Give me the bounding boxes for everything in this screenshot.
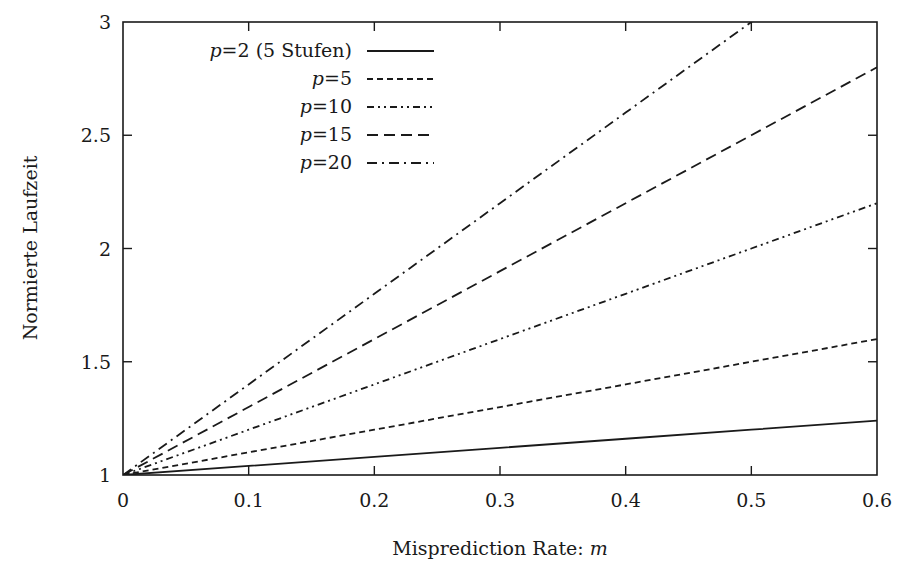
- series-line: [123, 0, 877, 475]
- axis-ticks: 00.10.20.30.40.50.611.522.53: [81, 11, 892, 511]
- legend-label: p=5: [312, 67, 352, 89]
- y-tick-label: 2: [99, 238, 111, 260]
- y-tick-label: 1.5: [81, 351, 111, 373]
- line-chart: 00.10.20.30.40.50.611.522.53 p=2 (5 Stuf…: [0, 0, 903, 575]
- x-tick-label: 0: [117, 489, 129, 511]
- series-line: [123, 203, 877, 475]
- y-axis-label: Normierte Laufzeit: [19, 155, 41, 340]
- legend: p=2 (5 Stufen)p=5p=10p=15p=20: [209, 39, 434, 173]
- x-tick-label: 0.3: [485, 489, 515, 511]
- series-line: [123, 67, 877, 475]
- legend-label: p=10: [300, 95, 352, 117]
- x-tick-label: 0.5: [736, 489, 766, 511]
- x-tick-label: 0.4: [611, 489, 641, 511]
- legend-label: p=20: [300, 151, 352, 173]
- series-layer: [123, 0, 877, 475]
- y-tick-label: 3: [99, 11, 111, 33]
- series-line: [123, 339, 877, 475]
- legend-label: p=2 (5 Stufen): [209, 39, 352, 61]
- x-tick-label: 0.2: [359, 489, 389, 511]
- y-tick-label: 1: [99, 464, 111, 486]
- x-tick-label: 0.1: [234, 489, 264, 511]
- legend-label: p=15: [300, 123, 352, 145]
- y-tick-label: 2.5: [81, 124, 111, 146]
- x-tick-label: 0.6: [862, 489, 892, 511]
- x-axis-label: Misprediction Rate: m: [392, 537, 608, 559]
